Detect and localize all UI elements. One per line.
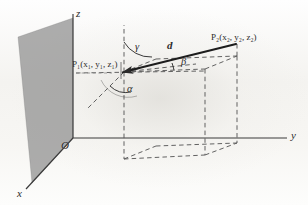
floor-haze — [73, 18, 292, 138]
origin-label: O — [61, 140, 69, 151]
box-edge-bottom-left-back — [124, 146, 156, 159]
box-edge-bottom-right — [205, 143, 237, 155]
x-axis-label: x — [17, 188, 22, 199]
z-axis-label: z — [76, 8, 80, 19]
angle-label-alpha: α — [127, 84, 133, 95]
xz-plane-shaded — [18, 18, 73, 183]
point-p1-label: P₁(x₁, y₁, z₁) — [72, 60, 118, 69]
box-edge-bottom-back — [156, 143, 237, 146]
figure-3d-direction-angles: z y x O P₁(x₁, y₁, z₁) P₂(x₂, y₂, z₂) d … — [0, 0, 308, 205]
box-edge-bottom-front — [124, 155, 205, 159]
angle-label-beta: β — [181, 57, 186, 68]
distance-label-d: d — [167, 40, 173, 51]
diagram-canvas — [0, 0, 308, 205]
y-axis-label: y — [291, 130, 296, 141]
angle-label-gamma: γ — [135, 42, 139, 53]
point-p2-label: P₂(x₂, y₂, z₂) — [211, 33, 257, 42]
